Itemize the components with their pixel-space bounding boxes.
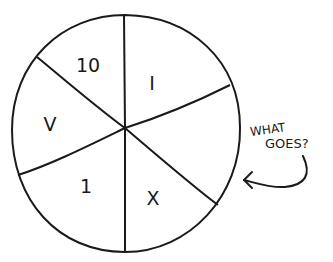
sector-label-I: I xyxy=(149,72,155,94)
annotation-goes: GOES? xyxy=(265,136,309,151)
spinner-diagram: 10 I X 1 V WHAT GOES? xyxy=(0,0,333,262)
arrow-icon xyxy=(244,156,307,188)
sector-label-1: 1 xyxy=(80,175,92,197)
sector-label-10: 10 xyxy=(76,54,100,76)
sector-label-X: X xyxy=(146,187,159,209)
sector-label-V: V xyxy=(44,113,57,135)
